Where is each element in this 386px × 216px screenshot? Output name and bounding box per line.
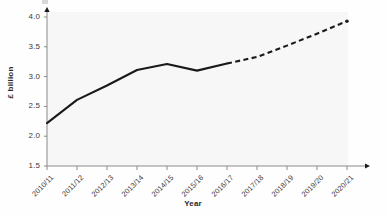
y-axis-arrow xyxy=(44,7,49,12)
series-end-point xyxy=(345,19,348,22)
x-axis-arrow xyxy=(365,163,370,168)
line-chart: 1.52.02.53.03.54.0 2010/112011/122012/13… xyxy=(0,0,386,216)
y-tick-label: 2.5 xyxy=(18,101,40,110)
x-axis-title: Year xyxy=(0,199,386,208)
y-tick-label: 4.0 xyxy=(18,12,40,21)
y-tick-label: 2.0 xyxy=(18,131,40,140)
axes xyxy=(44,7,370,169)
series-projected-line xyxy=(227,21,347,63)
y-tick-label: 3.5 xyxy=(18,42,40,51)
y-tick-label: 1.5 xyxy=(18,161,40,170)
y-tick-label: 3.0 xyxy=(18,72,40,81)
x-axis-ticks xyxy=(47,166,347,170)
y-axis-title: £ billion xyxy=(6,53,15,113)
series-actual-line xyxy=(47,63,227,123)
